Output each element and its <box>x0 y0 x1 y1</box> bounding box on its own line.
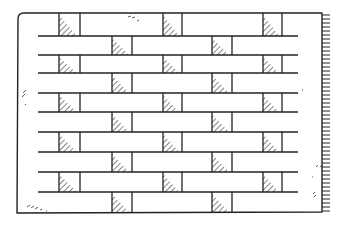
brick-shading <box>263 15 279 36</box>
brick-shading <box>59 95 77 112</box>
brick-shading <box>112 75 129 93</box>
brick-shading <box>212 154 229 172</box>
brick-shading <box>263 174 279 192</box>
brick-shading <box>112 114 129 132</box>
sketch-marks <box>22 16 322 211</box>
brick-shading <box>163 15 179 36</box>
brick-shading <box>112 38 129 55</box>
brick-shading <box>212 194 229 212</box>
brick-shading <box>163 134 179 152</box>
brick-shading <box>212 114 229 132</box>
brick-shading <box>112 154 129 172</box>
brick-shading <box>59 174 77 192</box>
brick-shading <box>59 57 77 73</box>
brick-shading <box>59 134 77 152</box>
mortar-lines <box>38 36 298 192</box>
brick-shading <box>263 134 279 152</box>
brick-shading <box>212 38 229 55</box>
brick-shading <box>263 95 279 112</box>
brick-shading <box>59 15 77 36</box>
brick-shading <box>212 75 229 93</box>
brick-wall-drawing <box>0 0 349 231</box>
brick-shading <box>163 174 179 192</box>
brick-shading <box>163 57 179 73</box>
brick-shading <box>263 57 279 73</box>
brick-shading <box>112 194 129 212</box>
edge-hatch-ticks <box>322 15 330 211</box>
brick-shading <box>163 95 179 112</box>
